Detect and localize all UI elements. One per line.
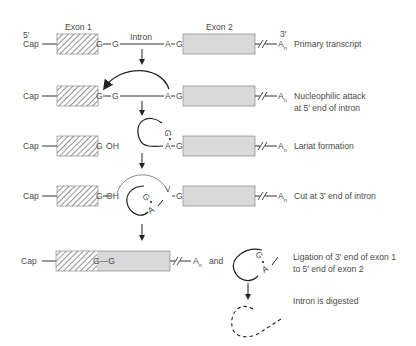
base-a: A	[165, 91, 171, 101]
poly-a-tail: An	[278, 91, 287, 105]
base-g: G	[96, 191, 103, 201]
step-label-nucleophilic-attack: Nucleophilic attack	[294, 91, 366, 101]
step-label-nucleophilic-attack-2: at 5′ end of intron	[294, 103, 360, 113]
step-label-lariat-formation: Lariat formation	[294, 141, 354, 151]
lariat-loop-icon	[138, 118, 163, 146]
digested-intron-icon	[232, 306, 281, 336]
cap-label: Cap	[21, 256, 37, 266]
base-oh: OH	[106, 141, 119, 151]
base-g: G	[96, 141, 103, 151]
step-label-primary-transcript: Primary transcript	[294, 39, 361, 49]
step-label-intron-digested: Intron is digested	[293, 296, 358, 306]
and-label: and	[209, 256, 223, 266]
base-g: G	[176, 91, 183, 101]
base-a: A	[165, 141, 171, 151]
step-label-ligation: Ligation of 3′ end of exon 1	[293, 252, 396, 262]
cut-arrow-icon	[117, 175, 168, 193]
row-cut-3prime	[42, 175, 277, 215]
base-oh: OH	[106, 191, 119, 201]
row-ligation	[42, 249, 278, 280]
splicing-diagram	[0, 0, 416, 346]
step-label-ligation-2: to 5′ end of exon 2	[293, 264, 363, 274]
base-g: G	[176, 191, 183, 201]
base-gg: G—G	[93, 256, 115, 266]
base-g: G	[163, 130, 173, 137]
three-prime-label: 3′	[280, 29, 286, 39]
base-g: G	[176, 39, 183, 49]
exon1-label: Exon 1	[65, 22, 92, 32]
base-g: G	[112, 91, 119, 101]
attack-arrow-icon	[106, 71, 169, 89]
base-g: G	[112, 39, 119, 49]
row-lariat-formation	[42, 118, 277, 156]
exon1-box	[57, 34, 98, 54]
intron-label: Intron	[130, 32, 152, 42]
row-nucleophilic-attack	[42, 71, 277, 106]
poly-a-tail: An	[278, 141, 287, 155]
cap-label: Cap	[23, 141, 39, 151]
step-label-cut-3prime: Cut at 3′ end of intron	[294, 191, 376, 201]
cap-label: Cap	[23, 39, 39, 49]
cap-label: Cap	[23, 91, 39, 101]
base-g: G	[96, 91, 103, 101]
base-g: G	[176, 141, 183, 151]
poly-a-tail: An	[278, 39, 287, 53]
cap-label: Cap	[23, 191, 39, 201]
poly-a-tail: An	[193, 256, 202, 270]
exon2-box	[183, 34, 255, 54]
exon2-label: Exon 2	[206, 22, 233, 32]
poly-a-tail: An	[278, 191, 287, 205]
base-g: G	[96, 39, 103, 49]
row-primary-transcript	[42, 34, 277, 54]
base-a: A	[165, 39, 171, 49]
